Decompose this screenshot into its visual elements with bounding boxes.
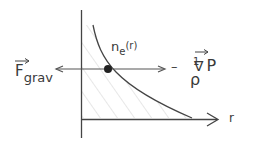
hatched-area <box>82 20 202 120</box>
curve-point-dot <box>104 65 112 73</box>
minus-sign: – <box>171 59 178 74</box>
pressure-gradient-label: ∇P <box>194 56 216 75</box>
density-label: ne(r) <box>111 39 137 54</box>
density-argument: (r) <box>125 40 137 51</box>
nabla-vector-arrow-icon <box>195 50 208 55</box>
gravity-subscript: grav <box>24 70 53 85</box>
x-axis-label: r <box>229 111 234 125</box>
density-symbol: n <box>111 39 119 54</box>
pressure-variable: P <box>206 56 216 75</box>
nabla-operator: ∇ <box>194 58 203 74</box>
gravity-force-label: Fgrav <box>15 62 53 80</box>
gravity-symbol: F <box>15 62 24 80</box>
